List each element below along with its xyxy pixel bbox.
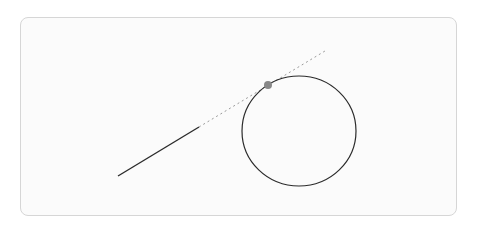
- circle: [242, 76, 356, 186]
- line-segment: [118, 127, 199, 176]
- diagram-canvas: [0, 0, 478, 232]
- tangent-point: [264, 81, 272, 89]
